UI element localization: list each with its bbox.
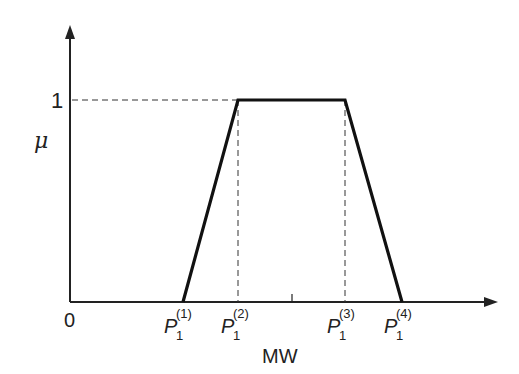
x-label-p4: P (4) 1 [384,315,397,338]
y-axis-label: μ [34,128,48,153]
membership-curve [183,100,402,302]
membership-chart [0,0,519,374]
x-axis-arrow-icon [484,297,498,307]
y-tick-label: 1 [51,88,63,114]
x-label-p1: P (1) 1 [164,315,177,338]
x-label-p3: P (3) 1 [327,315,340,338]
y-axis-arrow-icon [65,25,75,39]
x-label-p2: P (2) 1 [221,315,234,338]
origin-label: 0 [64,309,75,332]
x-axis-label: MW [262,345,298,368]
